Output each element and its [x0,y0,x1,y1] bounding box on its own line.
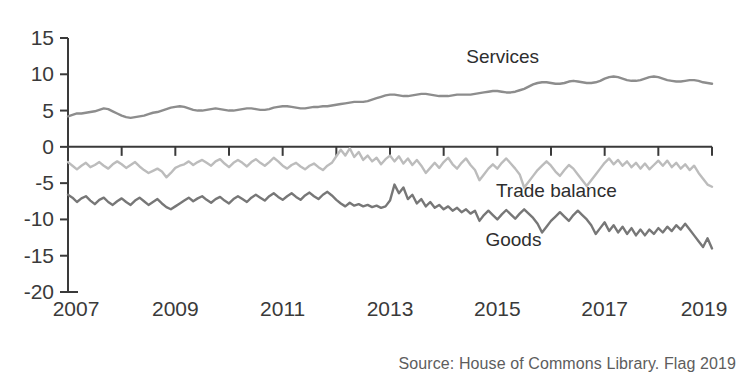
x-tick-label: 2007 [53,297,100,320]
y-tick-label: -5 [35,171,54,194]
x-tick-label: 2017 [581,297,628,320]
trade-balance-chart: 151050-5-10-15-2020072009201120132015201… [0,0,754,381]
y-tick-label: 15 [31,26,54,49]
x-tick-label: 2019 [681,297,728,320]
series-annotation-trade-balance: Trade balance [496,180,617,201]
y-tick-label: 0 [42,135,54,158]
x-tick-label: 2013 [367,297,414,320]
chart-axes: 151050-5-10-15-2020072009201120132015201… [24,26,728,320]
x-tick-label: 2011 [260,297,305,320]
chart-series [68,76,712,248]
series-annotation-goods: Goods [485,229,541,250]
y-tick-label: -15 [24,244,54,267]
y-tick-label: 5 [42,99,54,122]
x-tick-label: 2009 [152,297,199,320]
x-tick-label: 2015 [474,297,521,320]
series-line-services [68,76,712,117]
y-tick-label: -10 [24,207,54,230]
y-tick-label: 10 [31,62,54,85]
series-annotation-services: Services [466,46,539,67]
source-note: Source: House of Commons Library. Flag 2… [399,355,737,373]
y-tick-label: -20 [24,280,54,303]
